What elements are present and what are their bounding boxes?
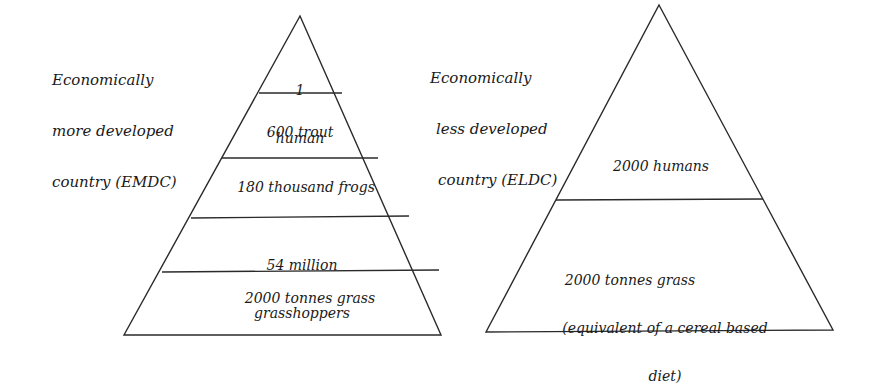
eldc-title: Economically less developed country (ELD… (430, 36, 557, 206)
emdc-title: Economically more developed country (EMD… (52, 38, 177, 208)
emdc-divider-3 (191, 216, 409, 218)
eldc-tier-2: 2000 tonnes grass (equivalent of a cerea… (562, 240, 767, 388)
emdc-tier-3: 180 thousand frogs (237, 179, 375, 195)
emdc-tier-1: 1 human (276, 50, 325, 162)
emdc-tier-5: 2000 tonnes grass (245, 290, 375, 306)
emdc-tier-4: 54 million grasshoppers (254, 225, 350, 337)
eldc-divider-1 (556, 199, 763, 200)
emdc-tier-2: 600 trout (267, 124, 334, 140)
eldc-tier-1: 2000 humans (613, 158, 709, 174)
